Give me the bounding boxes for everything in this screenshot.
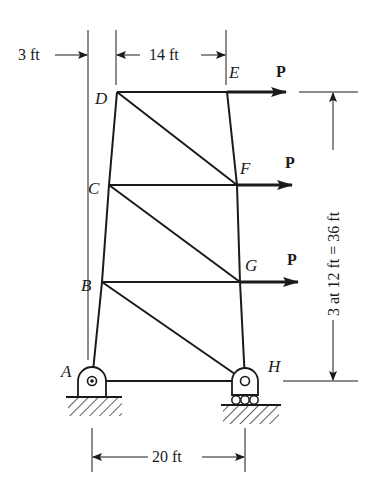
node-label-G: G <box>245 256 257 275</box>
load-label-F: P <box>285 154 295 171</box>
member-EF <box>227 92 237 185</box>
dimension-height: 3 at 12 ft = 36 ft <box>325 93 342 380</box>
member-DF <box>117 92 237 185</box>
node-label-A: A <box>60 362 72 381</box>
dimension-top-width: 14 ft <box>117 46 225 63</box>
node-labels: D E F C G B A H <box>60 63 282 381</box>
node-label-C: C <box>88 179 100 198</box>
load-label-E: P <box>276 63 286 80</box>
dim-14ft-label: 14 ft <box>149 46 179 63</box>
dimension-left-offset: 3 ft <box>18 46 87 63</box>
load-arrows: P P P <box>227 63 298 282</box>
truss-members <box>92 92 245 381</box>
load-label-G: P <box>287 251 297 268</box>
pin-support-A <box>66 367 122 416</box>
node-label-B: B <box>81 276 92 295</box>
member-CG <box>109 185 240 282</box>
dim-3ft-label: 3 ft <box>18 46 40 63</box>
member-FG <box>237 185 240 282</box>
node-label-E: E <box>228 63 240 82</box>
roller-support-H <box>221 368 281 424</box>
member-CD <box>109 92 117 185</box>
node-label-F: F <box>239 159 251 178</box>
dimension-bottom-width: 20 ft <box>93 448 244 465</box>
dim-20ft-label: 20 ft <box>152 448 182 465</box>
node-label-D: D <box>94 89 108 108</box>
member-BC <box>102 185 109 282</box>
node-label-H: H <box>267 357 282 376</box>
member-AB <box>92 282 102 381</box>
dim-36ft-label: 3 at 12 ft = 36 ft <box>325 211 342 316</box>
truss-diagram: P P P D E F C G B A H 3 ft 14 ft <box>0 0 389 500</box>
member-BH <box>102 282 245 381</box>
member-GH <box>240 282 245 381</box>
